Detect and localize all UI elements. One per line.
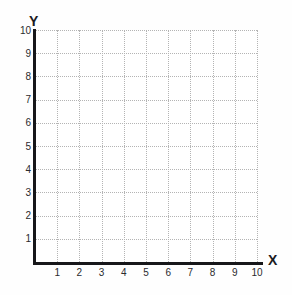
grid-line-horizontal xyxy=(35,53,257,54)
grid-line-vertical xyxy=(235,30,236,262)
grid-line-vertical xyxy=(146,30,147,262)
grid-line-vertical xyxy=(257,30,258,262)
y-axis-tick-label: 4 xyxy=(7,164,31,175)
x-axis-label: X xyxy=(268,252,277,268)
x-axis-tick-label: 3 xyxy=(91,267,113,279)
x-axis-line xyxy=(33,262,263,265)
y-axis-tick-label: 9 xyxy=(7,48,31,59)
y-axis-tick-label: 7 xyxy=(7,94,31,105)
grid-line-vertical xyxy=(79,30,80,262)
grid-line-horizontal xyxy=(35,146,257,147)
x-axis-tick-label: 4 xyxy=(113,267,135,279)
grid-line-horizontal xyxy=(35,100,257,101)
x-axis-tick-label: 1 xyxy=(46,267,68,279)
coordinate-graph: Y X 12345678910 12345678910 xyxy=(0,0,292,295)
grid-line-horizontal xyxy=(35,192,257,193)
grid-line-horizontal xyxy=(35,169,257,170)
x-axis-tick-label: 6 xyxy=(157,267,179,279)
plot-area xyxy=(35,30,257,262)
grid-line-horizontal xyxy=(35,123,257,124)
grid-line-horizontal xyxy=(35,76,257,77)
x-axis-tick-labels: 12345678910 xyxy=(35,267,257,281)
x-axis-tick-label: 10 xyxy=(246,267,268,279)
x-axis-tick-label: 2 xyxy=(68,267,90,279)
y-axis-tick-label: 5 xyxy=(7,141,31,152)
y-axis-tick-label: 6 xyxy=(7,117,31,128)
y-axis-tick-label: 10 xyxy=(7,25,31,36)
y-axis-tick-labels: 12345678910 xyxy=(0,30,31,262)
y-axis-tick-label: 8 xyxy=(7,71,31,82)
x-axis-tick-label: 9 xyxy=(224,267,246,279)
grid-line-vertical xyxy=(102,30,103,262)
y-axis-tick-label: 1 xyxy=(7,233,31,244)
y-axis-tick-label: 2 xyxy=(7,210,31,221)
grid-line-vertical xyxy=(57,30,58,262)
y-axis-line xyxy=(33,29,36,265)
x-axis-tick-label: 8 xyxy=(202,267,224,279)
grid-line-vertical xyxy=(168,30,169,262)
x-axis-tick-label: 7 xyxy=(179,267,201,279)
x-axis-tick-label: 5 xyxy=(135,267,157,279)
grid-line-horizontal xyxy=(35,239,257,240)
y-axis-tick-label: 3 xyxy=(7,187,31,198)
grid-line-vertical xyxy=(124,30,125,262)
grid-line-vertical xyxy=(213,30,214,262)
grid-line-horizontal xyxy=(35,30,257,31)
grid-line-horizontal xyxy=(35,216,257,217)
grid-line-vertical xyxy=(190,30,191,262)
